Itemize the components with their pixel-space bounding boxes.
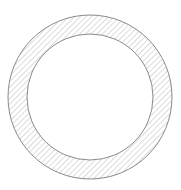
annulus-diagram — [0, 0, 181, 190]
